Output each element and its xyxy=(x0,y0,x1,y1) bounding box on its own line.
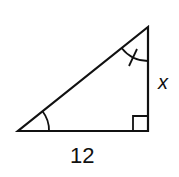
right-angle-mark xyxy=(133,116,148,131)
angle-tick-mark xyxy=(129,49,137,66)
side-label-base: 12 xyxy=(70,143,94,168)
triangle-diagram: x 12 xyxy=(0,0,179,177)
angle-arc-bottom-left xyxy=(43,111,50,131)
triangle xyxy=(18,27,148,131)
side-label-x: x xyxy=(157,71,169,93)
